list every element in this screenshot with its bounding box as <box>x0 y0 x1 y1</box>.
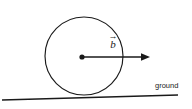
vector-label-b: → b <box>106 34 120 50</box>
vector-arrowhead <box>141 53 150 61</box>
ground-label: ground <box>155 82 178 90</box>
ground-line <box>2 95 178 100</box>
physics-diagram-figure: → b ground <box>0 0 192 109</box>
diagram-canvas <box>0 0 192 109</box>
